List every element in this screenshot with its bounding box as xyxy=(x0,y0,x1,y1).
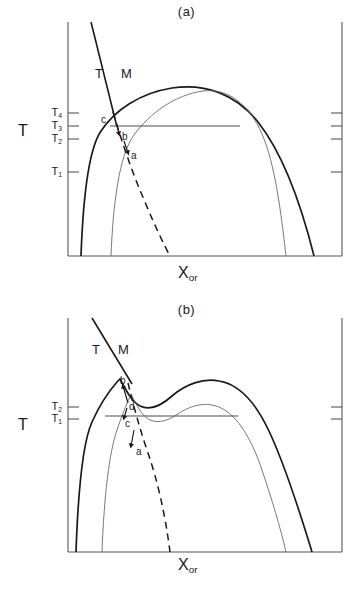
panel-a-curve-coherent-solvus xyxy=(111,91,286,256)
panel-b-arrow-to-a xyxy=(131,430,134,446)
panel-b-curve-tm-line xyxy=(92,318,132,384)
panel-a-curve-strain-free-solvus xyxy=(81,87,314,256)
panel-a: (a) T Xor T4 T3 T2 T1 T M c b a xyxy=(0,0,357,298)
panel-b-plot xyxy=(0,298,357,596)
panel-b-curve-strain-free-solvus xyxy=(76,379,312,552)
panel-a-curve-spinodal-dashed xyxy=(113,112,170,256)
panel-a-curve-tm-line xyxy=(91,22,117,127)
panel-b-curve-coherent-solvus xyxy=(102,394,286,552)
panel-a-plot xyxy=(0,0,357,298)
panel-b: (b) T Xor T2 T1 T M b d c a xyxy=(0,298,357,596)
figure-two-panel-phase-diagram: (a) T Xor T4 T3 T2 T1 T M c b a xyxy=(0,0,357,597)
